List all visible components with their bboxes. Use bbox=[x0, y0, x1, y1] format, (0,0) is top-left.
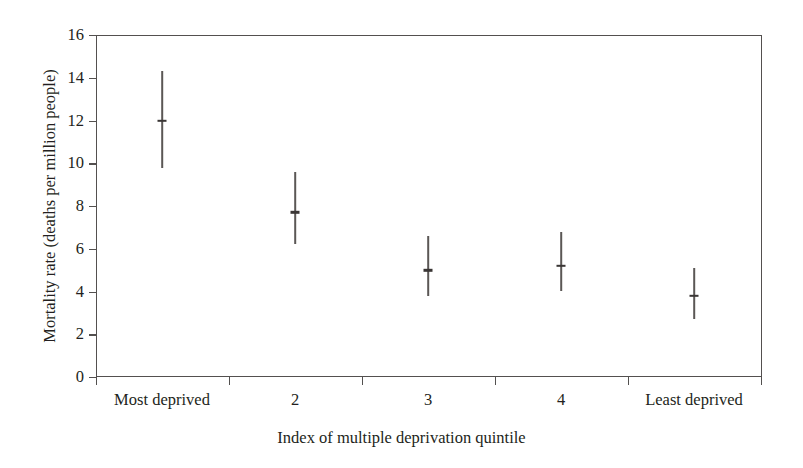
y-tick-mark bbox=[89, 35, 96, 36]
y-tick-mark bbox=[89, 334, 96, 335]
x-tick-label-least-deprived: Least deprived bbox=[645, 390, 743, 410]
error-bar bbox=[294, 172, 296, 245]
data-point-marker bbox=[690, 295, 699, 297]
x-tick-mark bbox=[495, 377, 496, 385]
y-axis-title: Mortality rate (deaths per million peopl… bbox=[40, 16, 60, 396]
x-tick-mark bbox=[229, 377, 230, 385]
x-tick-mark bbox=[96, 377, 97, 385]
x-tick-label-most-deprived: Most deprived bbox=[114, 390, 210, 410]
y-tick-mark bbox=[89, 121, 96, 122]
x-tick-label-2: 2 bbox=[291, 390, 299, 410]
data-point-marker bbox=[557, 265, 566, 267]
data-point-marker bbox=[158, 119, 167, 121]
y-tick-mark bbox=[89, 78, 96, 79]
y-tick-mark bbox=[89, 206, 96, 207]
y-tick-mark bbox=[89, 249, 96, 250]
x-tick-label-4: 4 bbox=[557, 390, 565, 410]
x-tick-mark bbox=[362, 377, 363, 385]
error-bar bbox=[560, 232, 562, 292]
y-tick-mark bbox=[89, 163, 96, 164]
data-point-marker bbox=[424, 269, 433, 271]
plot-area bbox=[96, 35, 762, 377]
chart-figure: 16 14 12 10 8 6 4 2 0 Mortality rate (de… bbox=[0, 0, 803, 468]
error-bar bbox=[427, 236, 429, 296]
y-tick-mark bbox=[89, 292, 96, 293]
x-tick-label-3: 3 bbox=[424, 390, 432, 410]
x-tick-mark bbox=[628, 377, 629, 385]
x-axis-title: Index of multiple deprivation quintile bbox=[0, 428, 803, 448]
x-tick-mark bbox=[761, 377, 762, 385]
data-point-marker bbox=[291, 211, 300, 213]
y-tick-mark bbox=[89, 377, 96, 378]
